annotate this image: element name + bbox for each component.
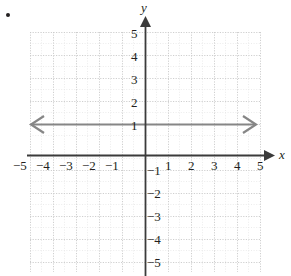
- y-tick-label-2: 2: [131, 96, 138, 109]
- x-axis-arrowhead: [264, 150, 275, 161]
- x-tick-label-5: 5: [257, 159, 264, 172]
- x-tick-label-2: 2: [188, 159, 195, 172]
- x-tick-label--2: −2: [82, 159, 96, 172]
- y-tick-label--1: −1: [147, 164, 161, 177]
- coordinate-plane-figure: x y −5 −4 −3 −2 −1 1 2 3 4 5 5 4 3 2 1 −…: [0, 0, 291, 276]
- x-tick-label-4: 4: [234, 159, 241, 172]
- y-tick-label-3: 3: [131, 73, 138, 86]
- y-tick-label-1: 1: [131, 119, 138, 132]
- x-tick-label--4: −4: [36, 159, 50, 172]
- x-tick-label--5: −5: [13, 159, 27, 172]
- y-tick-label--4: −4: [147, 233, 161, 246]
- x-tick-label--1: −1: [105, 159, 119, 172]
- x-tick-label-1: 1: [165, 159, 172, 172]
- y-tick-label-4: 4: [131, 50, 138, 63]
- x-axis-label: x: [279, 148, 285, 161]
- y-axis-label: y: [141, 1, 147, 14]
- y-axis-arrowhead: [140, 16, 151, 27]
- x-tick-label--3: −3: [59, 159, 73, 172]
- y-tick-label--3: −3: [147, 210, 161, 223]
- y-tick-label--5: −5: [147, 256, 161, 269]
- graph-canvas: [0, 0, 291, 276]
- x-tick-label-3: 3: [211, 159, 218, 172]
- y-tick-label--2: −2: [147, 187, 161, 200]
- y-tick-label-5: 5: [131, 27, 138, 40]
